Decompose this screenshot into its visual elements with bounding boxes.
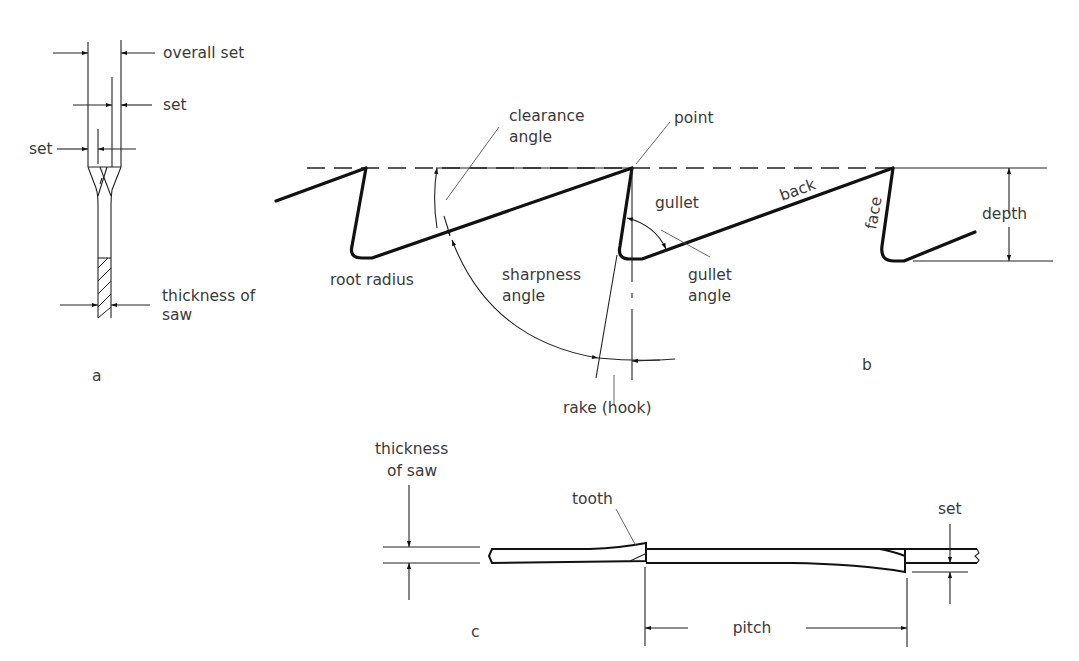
label-gullet-angle-2: angle (688, 287, 731, 305)
label-thickness-of-saw-2: saw (162, 306, 193, 324)
label-set-left: set (29, 140, 53, 158)
saw-tooth-diagram: overall set set set thickness of saw a (0, 0, 1079, 661)
label-root-radius: root radius (330, 271, 414, 289)
caption-c: c (471, 623, 480, 641)
label-pitch: pitch (733, 619, 772, 637)
panel-b: clearance angle point gullet back face d… (276, 107, 1053, 417)
label-face: face (862, 195, 885, 231)
label-thickness-1: thickness (375, 440, 448, 458)
label-thickness-2: of saw (387, 462, 437, 480)
label-clearance-angle-2: angle (509, 128, 552, 146)
label-back: back (777, 175, 818, 205)
label-thickness-of-saw-1: thickness of (162, 287, 256, 305)
label-sharpness-angle-1: sharpness (502, 266, 581, 284)
label-overall-set: overall set (163, 44, 244, 62)
label-rake-hook: rake (hook) (563, 399, 652, 417)
label-tooth: tooth (572, 490, 613, 508)
panel-a: overall set set set thickness of saw a (29, 40, 256, 385)
label-depth: depth (982, 205, 1027, 223)
label-point: point (674, 109, 714, 127)
label-set-right: set (163, 96, 187, 114)
panel-c: thickness of saw tooth set pitch c (375, 440, 979, 647)
label-sharpness-angle-2: angle (502, 287, 545, 305)
caption-b: b (862, 356, 872, 374)
label-gullet: gullet (655, 194, 699, 212)
label-gullet-angle-1: gullet (688, 266, 732, 284)
label-clearance-angle-1: clearance (509, 107, 585, 125)
caption-a: a (92, 367, 102, 385)
label-set: set (938, 500, 962, 518)
